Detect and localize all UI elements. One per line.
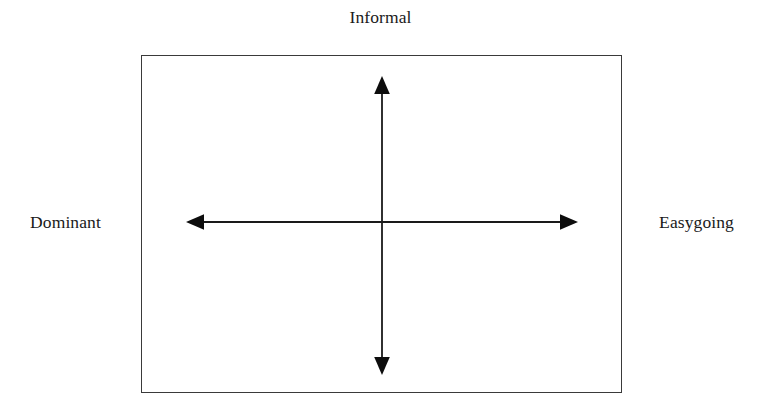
axis-label-top: Informal	[0, 7, 761, 28]
matrix-frame	[141, 55, 622, 393]
axis-label-left: Dominant	[0, 212, 131, 233]
axis-label-right: Easygoing	[632, 212, 761, 233]
diagram-canvas: Informal Dominant Easygoing	[0, 0, 761, 419]
